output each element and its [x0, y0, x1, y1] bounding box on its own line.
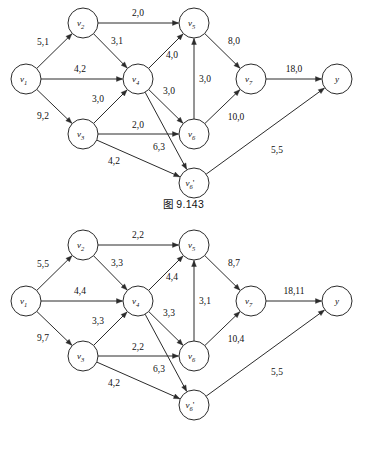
edge-v7-y	[266, 299, 322, 304]
node-v6: v6	[179, 119, 209, 149]
node-y-label: y	[334, 74, 339, 84]
edge-v6p-y-label: 5,5	[271, 145, 283, 155]
node-v1: v1	[11, 64, 41, 94]
edge-v5-v7-label: 8,7	[228, 258, 240, 268]
edge-v2-v5	[98, 243, 179, 248]
edge-v2-v4-label: 3,1	[111, 36, 123, 46]
node-v3: v3	[68, 119, 98, 149]
edge-v6-v5	[192, 261, 197, 342]
edge-v6-v5-label: 3,1	[199, 296, 211, 306]
figure-caption-1: 图 9.143	[0, 196, 367, 211]
edge-v1-v2-label: 5,1	[37, 37, 49, 47]
edge-v3-v6-label: 2,0	[132, 120, 144, 130]
edge-v6p-y	[206, 310, 324, 396]
edge-v6-v5	[192, 39, 197, 120]
network-flow-diagram-1: 5,14,29,22,03,13,02,04,24,03,06,33,08,01…	[0, 0, 367, 210]
edge-v3-v6p-label: 4,2	[108, 378, 120, 388]
edge-v4-v6-label: 3,3	[163, 308, 175, 318]
edge-v2-v4-label: 3,3	[111, 258, 123, 268]
node-v5: v5	[179, 230, 209, 260]
network-flow-diagram-2: 5,54,49,72,23,33,32,24,24,43,36,33,18,71…	[0, 222, 367, 430]
edge-v6p-y-label: 5,5	[271, 367, 283, 377]
edge-v1-v4-label: 4,4	[74, 286, 86, 296]
node-y-label: y	[334, 296, 339, 306]
edge-v7-y-label: 18,0	[286, 64, 303, 74]
node-y: y	[322, 64, 352, 94]
edge-v7-y	[266, 77, 322, 82]
edge-v1-v3-label: 9,2	[37, 111, 49, 121]
edge-v5-v7-label: 8,0	[228, 36, 240, 46]
node-v6p: v6'	[179, 390, 209, 420]
edge-v1-v3-label: 9,7	[37, 333, 49, 343]
node-v5: v5	[179, 8, 209, 38]
edge-v6p-y	[206, 88, 324, 174]
figure-9-144: 5,54,49,72,23,33,32,24,24,43,36,33,18,71…	[0, 222, 367, 454]
node-v6: v6	[179, 341, 209, 371]
edge-v6-v7-label: 10,0	[228, 112, 245, 122]
edge-v7-y-label: 18,11	[283, 286, 304, 296]
edge-v1-v4	[41, 299, 123, 304]
figure-9-143: 5,14,29,22,03,13,02,04,24,03,06,33,08,01…	[0, 0, 367, 227]
edge-v4-v5-label: 4,0	[166, 50, 178, 60]
node-y: y	[322, 286, 352, 316]
edge-v1-v4	[41, 77, 123, 82]
edge-v3-v4-label: 3,3	[92, 316, 104, 326]
edge-v6-v7-label: 10,4	[228, 334, 245, 344]
edge-v2-v5-label: 2,0	[132, 8, 144, 18]
node-v7: v7	[236, 286, 266, 316]
edge-v2-v5-label: 2,2	[132, 230, 144, 240]
node-v3: v3	[68, 341, 98, 371]
edge-v4-v6-label: 3,0	[163, 86, 175, 96]
node-v6p: v6'	[179, 168, 209, 198]
node-v7: v7	[236, 64, 266, 94]
node-v2: v2	[68, 8, 98, 38]
edge-v3-v6-label: 2,2	[132, 342, 144, 352]
edge-v3-v4-label: 3,0	[92, 94, 104, 104]
edge-v2-v5	[98, 21, 179, 26]
edge-v4-v6p-label: 6,3	[153, 364, 165, 374]
node-v4: v4	[123, 64, 153, 94]
node-v2: v2	[68, 230, 98, 260]
edge-v1-v4-label: 4,2	[74, 64, 86, 74]
edge-v4-v5-label: 4,4	[166, 272, 178, 282]
edge-v3-v6p-label: 4,2	[108, 156, 120, 166]
edge-v6-v5-label: 3,0	[199, 74, 211, 84]
node-v4: v4	[123, 286, 153, 316]
node-v1: v1	[11, 286, 41, 316]
edge-v4-v6p-label: 6,3	[153, 142, 165, 152]
edge-v1-v2-label: 5,5	[37, 259, 49, 269]
